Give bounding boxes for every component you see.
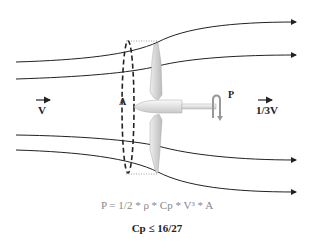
- power-label: P: [228, 89, 234, 100]
- shaft: [182, 104, 216, 109]
- outflow-velocity-label: 1/3V: [256, 104, 278, 116]
- swept-area: [122, 41, 134, 173]
- power-formula: P = 1/2 * ρ * Cp * V³ * A: [0, 199, 314, 211]
- nacelle: [134, 100, 182, 113]
- betz-limit: Cp ≤ 16/27: [0, 222, 314, 234]
- inflow-velocity-label: V: [38, 104, 46, 116]
- lower-blade: [150, 114, 162, 173]
- area-label: A: [119, 96, 126, 107]
- upper-blade: [150, 43, 162, 100]
